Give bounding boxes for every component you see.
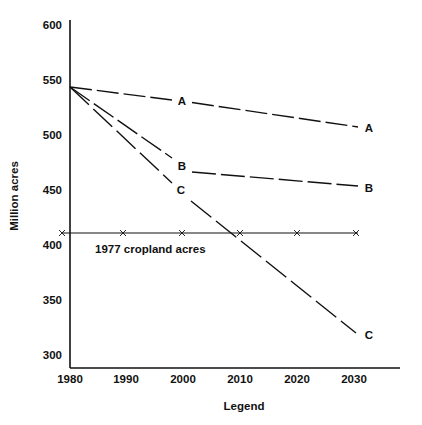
x-tick-label-2010: 2010	[227, 373, 253, 385]
annotation-1977-cropland-acres: 1977 cropland acres	[95, 243, 206, 255]
series-label-c-inline: C	[177, 184, 185, 196]
y-tick-label-350: 350	[43, 294, 62, 306]
x-tick-label-2020: 2020	[284, 373, 310, 385]
line-chart: 600 550 500 450 400 350 300 1980 1990 20…	[0, 0, 422, 425]
series-line-c	[70, 87, 356, 333]
series-label-a-right: A	[365, 122, 373, 134]
x-tick-label-1980: 1980	[57, 373, 83, 385]
series-label-a-inline: A	[178, 95, 186, 107]
y-tick-label-300: 300	[43, 349, 62, 361]
x-tick-label-2030: 2030	[341, 373, 367, 385]
y-tick-label-450: 450	[43, 184, 62, 196]
y-tick-label-600: 600	[43, 19, 62, 31]
series-label-b-right: B	[365, 182, 373, 194]
chart-container: 600 550 500 450 400 350 300 1980 1990 20…	[0, 0, 422, 425]
y-tick-label-500: 500	[43, 129, 62, 141]
x-axis-title: Legend	[224, 400, 265, 412]
x-tick-label-1990: 1990	[113, 373, 139, 385]
y-tick-label-550: 550	[43, 74, 62, 86]
series-label-b-inline: B	[178, 160, 186, 172]
series-label-c-right: C	[365, 329, 373, 341]
y-tick-label-400: 400	[43, 239, 62, 251]
x-tick-label-2000: 2000	[170, 373, 196, 385]
series-line-b	[70, 87, 358, 186]
series-line-a	[70, 87, 358, 127]
y-axis-title: Million acres	[8, 161, 20, 231]
